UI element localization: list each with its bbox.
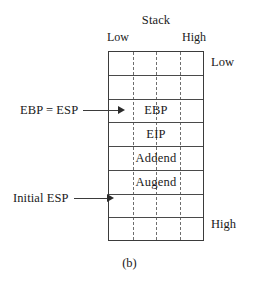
figure-caption: (b)	[0, 256, 259, 270]
top-axis-label-low: Low	[107, 30, 129, 44]
stack-row-label: Augend	[136, 176, 177, 189]
pointer-label: EBP = ESP	[20, 103, 78, 117]
stack-row-label: Addend	[136, 152, 177, 165]
pointer-label: Initial ESP	[13, 191, 69, 205]
stack-row	[109, 218, 203, 242]
right-axis-label-low: Low	[211, 55, 234, 69]
top-axis-label-high: High	[166, 30, 206, 44]
stack-diagram: Stack Low High EBP EIP Addend Augend	[0, 0, 259, 282]
stack-row-label: EIP	[146, 128, 165, 141]
stack-row-augend: Augend	[109, 171, 203, 195]
stack-row-addend: Addend	[109, 147, 203, 171]
stack-row	[109, 76, 203, 100]
pointer-annotation-initial-esp: Initial ESP	[13, 190, 114, 206]
stack-row-ebp: EBP	[109, 100, 203, 124]
stack-box: EBP EIP Addend Augend	[108, 51, 204, 241]
arrow-right-icon	[74, 193, 114, 203]
diagram-title: Stack	[108, 13, 204, 27]
stack-row-eip: EIP	[109, 123, 203, 147]
stack-row	[109, 195, 203, 219]
stack-row	[109, 52, 203, 76]
right-axis-label-high: High	[211, 217, 236, 231]
stack-row-label: EBP	[144, 104, 168, 117]
